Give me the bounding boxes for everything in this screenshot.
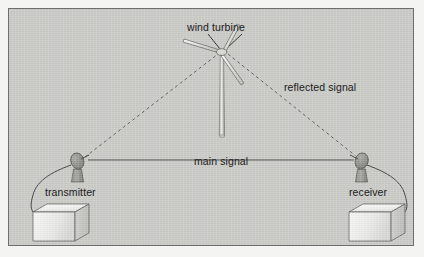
turbine-tower-base	[219, 135, 225, 137]
receiver-equipment-box	[349, 204, 405, 241]
label-main-signal: main signal	[194, 155, 248, 167]
label-transmitter: transmitter	[45, 186, 96, 198]
turbine-tower	[219, 53, 224, 136]
turbine-blade-1	[183, 39, 220, 53]
transmitter-equipment-box	[33, 204, 89, 241]
label-reflected-signal: reflected signal	[284, 81, 356, 93]
label-wind-turbine: wind turbine	[187, 21, 245, 33]
transmitter-assembly	[31, 151, 89, 212]
receiver-assembly	[350, 151, 407, 212]
receiver-box-front	[349, 212, 391, 241]
wind-turbine	[183, 24, 244, 137]
transmitter-box-front	[33, 212, 75, 241]
transmitter-pedestal	[72, 169, 84, 182]
diagram-panel: wind turbine reflected signal main signa…	[8, 8, 414, 246]
turbine-blade-3	[221, 54, 244, 85]
reflected-signal-path-scattered	[228, 54, 357, 157]
figure-container: wind turbine reflected signal main signa…	[0, 0, 424, 257]
diagram-scene	[9, 9, 414, 246]
turbine-hub	[216, 49, 226, 56]
label-receiver: receiver	[349, 186, 387, 198]
receiver-pedestal	[356, 169, 368, 182]
reflected-signal-path-incident	[85, 54, 218, 157]
